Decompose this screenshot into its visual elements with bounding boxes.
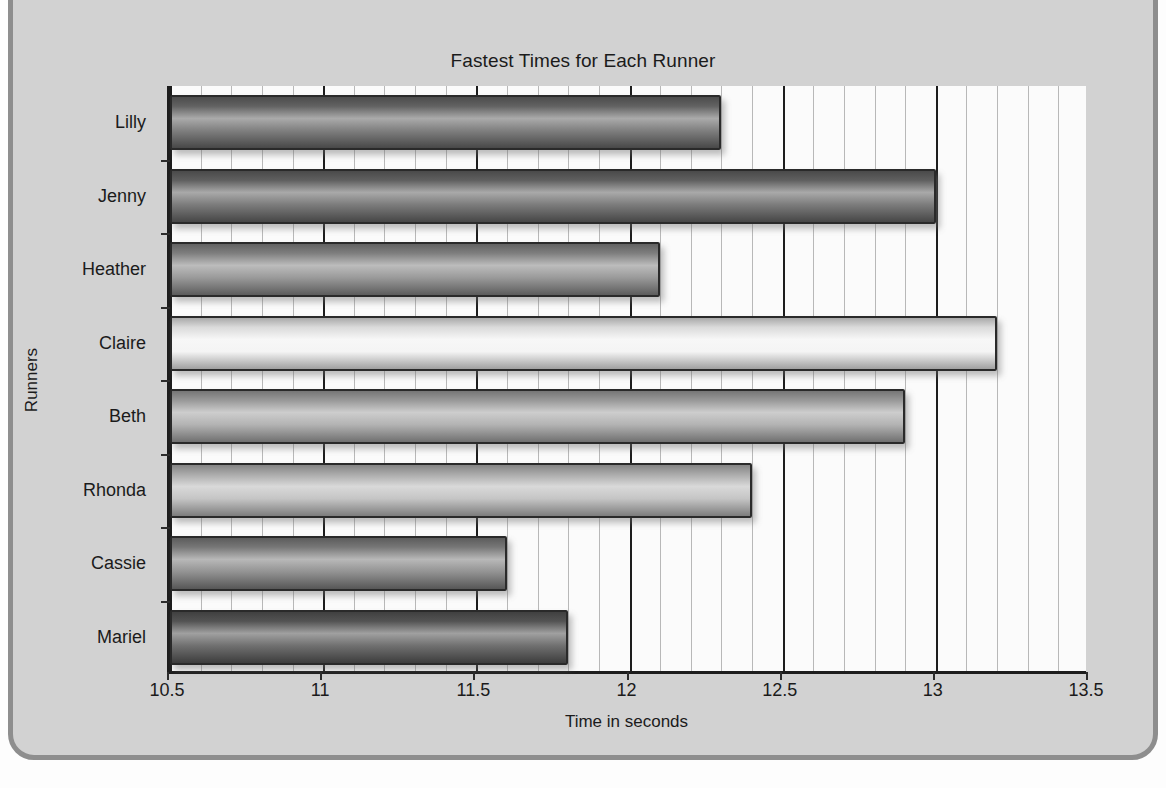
bar-slot (170, 380, 1086, 454)
bar-lilly[interactable] (170, 95, 721, 150)
y-axis-tick (161, 380, 170, 382)
x-axis-label-11-5: 11.5 (428, 680, 518, 701)
bar-heather[interactable] (170, 242, 660, 297)
bar-slot (170, 160, 1086, 234)
bar-jenny[interactable] (170, 169, 936, 224)
bar-slot (170, 86, 1086, 160)
bar-slot (170, 527, 1086, 601)
y-axis-label-mariel: Mariel (26, 601, 146, 675)
x-axis-tick (780, 672, 782, 680)
x-axis-title: Time in seconds (167, 712, 1086, 732)
bar-slot (170, 233, 1086, 307)
y-axis-tick (161, 307, 170, 309)
x-axis-tick (167, 672, 169, 680)
scanned-page: Fastest Times for Each Runner Runners Li… (0, 0, 1166, 788)
x-axis-tick (1086, 672, 1088, 680)
bar-mariel[interactable] (170, 610, 568, 665)
y-axis-label-claire: Claire (26, 307, 146, 381)
y-axis-tick (161, 527, 170, 529)
x-axis-tick (473, 672, 475, 680)
x-axis-label-13: 13 (888, 680, 978, 701)
x-axis-tick (933, 672, 935, 680)
x-axis-label-11: 11 (275, 680, 365, 701)
y-axis-tick (161, 233, 170, 235)
bar-chart: Fastest Times for Each Runner Runners Li… (0, 0, 1166, 788)
y-axis-label-cassie: Cassie (26, 527, 146, 601)
bar-claire[interactable] (170, 316, 997, 371)
bar-beth[interactable] (170, 389, 905, 444)
chart-title: Fastest Times for Each Runner (0, 50, 1166, 72)
bar-slot (170, 454, 1086, 528)
y-axis-label-rhonda: Rhonda (26, 454, 146, 528)
x-axis-label-12-5: 12.5 (735, 680, 825, 701)
y-axis-label-heather: Heather (26, 233, 146, 307)
x-axis-tick (320, 672, 322, 680)
bars-layer (170, 86, 1086, 671)
bar-cassie[interactable] (170, 536, 507, 591)
plot-area (167, 86, 1086, 674)
x-axis-labels: 10.51111.51212.51313.5 (167, 680, 1086, 712)
y-axis-label-jenny: Jenny (26, 160, 146, 234)
y-axis-labels: LillyJennyHeatherClaireBethRhondaCassieM… (40, 86, 160, 674)
x-axis-tick (627, 672, 629, 680)
y-axis-tick (161, 454, 170, 456)
y-axis-tick (161, 601, 170, 603)
x-axis-label-10-5: 10.5 (122, 680, 212, 701)
bar-slot (170, 601, 1086, 675)
y-axis-label-lilly: Lilly (26, 86, 146, 160)
x-axis-label-12: 12 (582, 680, 672, 701)
bar-slot (170, 307, 1086, 381)
y-axis-label-beth: Beth (26, 380, 146, 454)
x-axis-label-13-5: 13.5 (1041, 680, 1131, 701)
bar-rhonda[interactable] (170, 463, 752, 518)
y-axis-tick (161, 160, 170, 162)
